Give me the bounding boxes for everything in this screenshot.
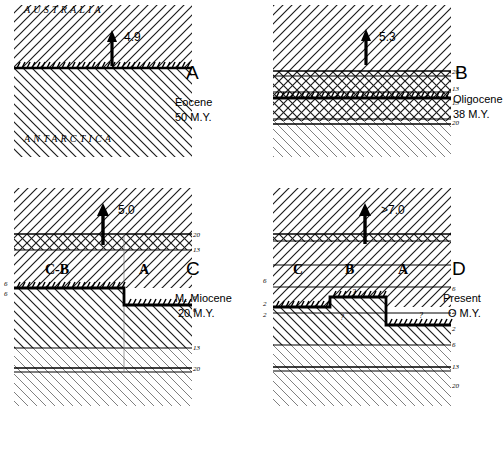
panel-a-epoch: Eocene (175, 96, 212, 108)
panel-d-block-label-2: A (398, 262, 408, 278)
panel-c-anomaly-right-4: 13 (193, 344, 200, 352)
panel-b-anomaly-right-0: 20 (452, 68, 459, 76)
panel-c-anomaly-right-5: 20 (193, 365, 200, 373)
panel-a-letter: A (186, 62, 199, 84)
panel-d-anomaly-right-2: 2 (452, 325, 456, 333)
panel-c-anomaly-right-3: 6 (193, 306, 197, 314)
panel-a-continent-bottom: ANTARCTICA (24, 133, 114, 144)
panel-b-anomaly-right-3: 20 (452, 119, 459, 127)
panel-d-anomaly-right-5: 20 (452, 382, 459, 390)
panel-d-question-2: ? (419, 311, 423, 320)
panel-d-anomaly-right-3: 6 (452, 341, 456, 349)
panel-a-continent-top: AUSTRALIA (24, 4, 104, 15)
panel-d-anomaly-right-1: 2 (452, 308, 456, 316)
panel-d-block-label-1: B (345, 262, 354, 278)
panel-d-anomaly-right-0: 6 (452, 285, 456, 293)
panel-c-rate-label: 5.0 (118, 203, 135, 217)
panel-c-letter: C (186, 258, 200, 280)
panel-c-anomaly-right-1: 13 (193, 246, 200, 254)
panel-b-anomaly-right-1: 13 (452, 85, 459, 93)
panel-d-anomaly-left-1: 2 (263, 300, 267, 308)
panel-a-rate-label: 4.9 (124, 30, 141, 44)
panel-d-block-label-0: C (293, 262, 303, 278)
panel-d-letter: D (452, 258, 466, 280)
panel-d-rate-label: >7.0 (381, 203, 405, 217)
panel-c-anomaly-left-0: 6 (4, 280, 8, 288)
panel-c-block-label-1: A (139, 262, 149, 278)
panel-c-anomaly-left-1: 6 (4, 290, 8, 298)
panel-d-question-0: ? (352, 288, 356, 297)
panel-c-epoch: M. Miocene (175, 292, 232, 304)
panel-d-anomaly-right-4: 13 (452, 363, 459, 371)
panel-d-epoch: Present (443, 292, 481, 304)
panel-b-epoch: Oligocene (453, 93, 503, 105)
panel-d-question-1: ? (340, 313, 344, 322)
panel-a-age: 50 M.Y. (175, 111, 212, 123)
panel-d-anomaly-left-2: 2 (263, 311, 267, 319)
panel-d-anomaly-left-0: 6 (263, 277, 267, 285)
panel-c-block-label-0: C-B (45, 262, 69, 278)
panel-c-anomaly-right-0: 20 (193, 231, 200, 239)
panel-c-anomaly-right-2: 6 (193, 294, 197, 302)
panel-b-rate-label: 5.3 (379, 30, 396, 44)
panel-b-anomaly-right-2: 13 (452, 99, 459, 107)
panel-b-body (273, 5, 451, 157)
